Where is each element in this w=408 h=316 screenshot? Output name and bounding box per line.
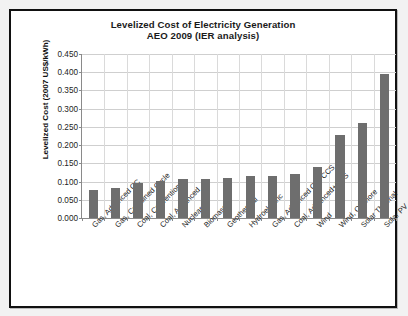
x-axis-tick-mark (396, 218, 397, 221)
x-axis-tick-mark (194, 218, 195, 221)
x-axis-tick-mark (217, 218, 218, 221)
y-axis-tick-mark (79, 72, 82, 73)
screenshot-root: Levelized Cost of Electricity Generation… (0, 0, 408, 316)
x-axis-tick-mark (104, 218, 105, 221)
chart-frame: Levelized Cost of Electricity Generation… (9, 9, 397, 308)
y-axis-tick-mark (79, 127, 82, 128)
y-axis-tick-mark (79, 54, 82, 55)
bar (313, 167, 322, 218)
bar (133, 183, 142, 218)
x-axis-tick-mark (127, 218, 128, 221)
y-axis-tick-label: 0.200 (58, 141, 79, 150)
bar (358, 123, 367, 218)
y-axis-tick-label: 0.250 (58, 122, 79, 131)
y-axis-tick-label: 0.350 (58, 86, 79, 95)
category-gridline (351, 54, 352, 218)
x-axis-tick-mark (351, 218, 352, 221)
bar-chart: Levelized Cost of Electricity Generation… (11, 11, 395, 306)
category-gridline (239, 54, 240, 218)
x-axis-tick-mark (306, 218, 307, 221)
category-gridline (217, 54, 218, 218)
category-gridline (104, 54, 105, 218)
bar (111, 188, 120, 218)
x-axis-tick-mark (82, 218, 83, 221)
bar (246, 176, 255, 218)
y-axis-tick-mark (79, 90, 82, 91)
x-axis-tick-mark (284, 218, 285, 221)
y-axis-tick-mark (79, 182, 82, 183)
chart-title: Levelized Cost of Electricity Generation (11, 19, 395, 30)
x-axis-tick-mark (329, 218, 330, 221)
y-axis-tick-mark (79, 200, 82, 201)
y-axis-tick-mark (79, 145, 82, 146)
category-gridline (261, 54, 262, 218)
bar (156, 181, 165, 218)
category-gridline (284, 54, 285, 218)
chart-title-block: Levelized Cost of Electricity Generation… (11, 19, 395, 42)
bar (335, 135, 344, 218)
y-axis-tick-mark (79, 163, 82, 164)
bar (178, 179, 187, 218)
y-axis-tick-label: 0.100 (58, 177, 79, 186)
x-axis-tick-mark (172, 218, 173, 221)
x-axis-tick-mark (261, 218, 262, 221)
y-axis-tick-label: 0.150 (58, 159, 79, 168)
y-axis-tick-mark (79, 109, 82, 110)
chart-subtitle: AEO 2009 (IER analysis) (11, 30, 395, 41)
bar (201, 179, 210, 218)
x-axis-tick-mark (239, 218, 240, 221)
y-axis-tick-label: 0.300 (58, 104, 79, 113)
y-axis-tick-label: 0.000 (58, 214, 79, 223)
plot-area: 0.4500.4000.3500.3000.2500.2000.1500.100… (81, 54, 396, 219)
bar (380, 74, 389, 218)
bar (290, 174, 299, 218)
x-axis-tick-mark (149, 218, 150, 221)
bar (89, 190, 98, 218)
bar (268, 176, 277, 218)
bar (223, 178, 232, 218)
y-axis-tick-label: 0.050 (58, 195, 79, 204)
x-axis-tick-mark (374, 218, 375, 221)
y-axis-tick-label: 0.450 (58, 50, 79, 59)
y-axis-title: Levelized Cost (2007 US$/kWh) (41, 20, 50, 180)
y-axis-tick-label: 0.400 (58, 68, 79, 77)
